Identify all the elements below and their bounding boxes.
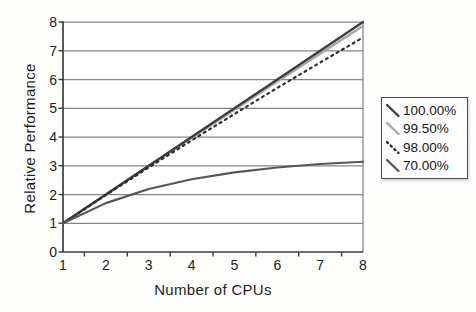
y-tick-label: 8 (31, 14, 57, 30)
legend-label: 98.00% (403, 140, 449, 155)
dotted-line-sample-icon (385, 140, 401, 155)
legend-item: 98.00% (385, 138, 465, 156)
y-axis-title: Relative Performance (21, 59, 38, 219)
x-tick-label: 3 (138, 257, 160, 273)
x-tick-label: 2 (95, 257, 117, 273)
line-sample-icon (385, 103, 401, 118)
x-tick-label: 8 (352, 257, 374, 273)
amdahl-scaling-figure: 12345678 012345678 Number of CPUs Relati… (0, 0, 476, 312)
legend-label: 70.00% (403, 158, 449, 173)
legend: 100.00% 99.50% 98.00% 70.00% (381, 97, 468, 179)
legend-key-stroke (387, 123, 399, 134)
legend-key-stroke (387, 160, 399, 171)
legend-item: 100.00% (385, 101, 465, 119)
y-tick-label: 0 (31, 244, 57, 260)
legend-key-stroke (387, 142, 399, 153)
x-tick-label: 5 (223, 257, 245, 273)
x-axis-title: Number of CPUs (63, 281, 363, 298)
legend-item: 99.50% (385, 120, 465, 138)
y-tick-label: 7 (31, 43, 57, 59)
x-tick-label: 6 (266, 257, 288, 273)
legend-label: 100.00% (403, 103, 456, 118)
legend-key-stroke (387, 105, 399, 116)
line-sample-icon (385, 121, 401, 136)
legend-label: 99.50% (403, 121, 449, 136)
x-tick-label: 4 (181, 257, 203, 273)
line-sample-icon (385, 158, 401, 173)
legend-item: 70.00% (385, 157, 465, 175)
x-tick-label: 7 (309, 257, 331, 273)
